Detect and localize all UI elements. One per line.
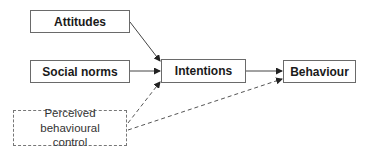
node-attitudes: Attitudes (30, 10, 130, 33)
node-behaviour-label: Behaviour (290, 65, 349, 79)
node-intentions: Intentions (161, 59, 246, 83)
node-pbc-label-line1: Perceived behavioural (14, 106, 126, 135)
node-intentions-label: Intentions (175, 64, 232, 78)
edge-attitudes-intentions (130, 22, 160, 61)
edge-pbc-intentions (128, 82, 160, 123)
node-pbc-label-line2: control (53, 135, 88, 149)
node-social-norms: Social norms (30, 60, 130, 83)
edge-pbc-behaviour (128, 79, 282, 130)
node-behaviour: Behaviour (283, 60, 356, 83)
node-perceived-behavioural-control: Perceived behavioural control (13, 110, 127, 146)
node-attitudes-label: Attitudes (54, 15, 106, 29)
node-social-norms-label: Social norms (42, 65, 117, 79)
